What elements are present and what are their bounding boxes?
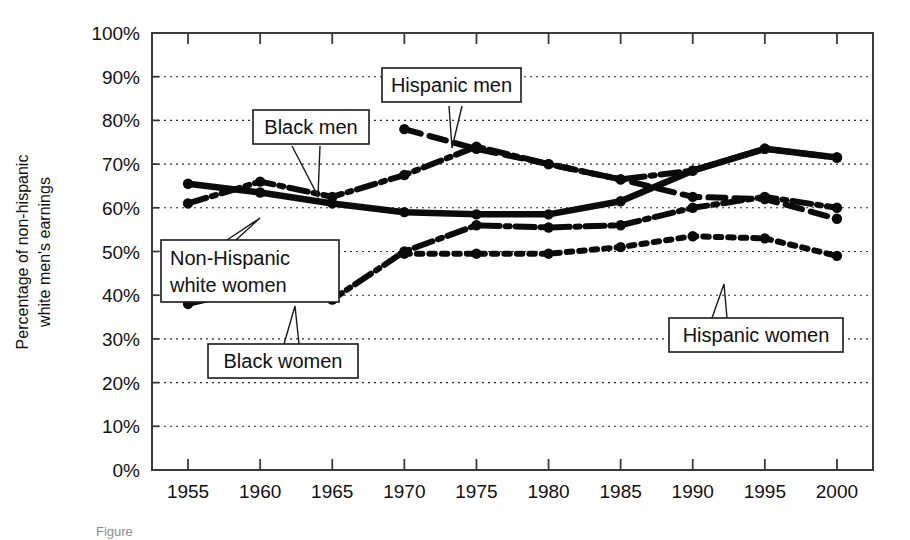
y-tick-label-20: 20% (102, 373, 140, 394)
x-tick-label-1970: 1970 (383, 481, 425, 502)
y-tick-label-60: 60% (102, 198, 140, 219)
black-men-label: Black men (264, 116, 357, 138)
y-tick-label-100: 100% (91, 23, 140, 44)
data-point (255, 187, 265, 197)
data-point (615, 242, 625, 252)
y-tick-label-80: 80% (102, 110, 140, 131)
data-point (832, 251, 842, 261)
data-point (615, 174, 625, 184)
data-point (471, 220, 481, 230)
data-point (255, 176, 265, 186)
data-point (615, 220, 625, 230)
data-point (832, 203, 842, 213)
hispanic-men-label: Hispanic men (391, 74, 512, 96)
black-women-label: Black women (224, 350, 343, 372)
x-tick-label-1980: 1980 (527, 481, 569, 502)
data-point (183, 198, 193, 208)
data-point (471, 144, 481, 154)
line-chart: 1955196019651970197519801985199019952000… (0, 0, 910, 540)
y-tick-label-50: 50% (102, 242, 140, 263)
data-point (543, 222, 553, 232)
data-point (543, 248, 553, 258)
non-hispanic-white-women-label-line1: Non-Hispanic (170, 247, 290, 269)
data-point (688, 231, 698, 241)
data-point (688, 192, 698, 202)
x-tick-label-2000: 2000 (816, 481, 858, 502)
y-tick-label-90: 90% (102, 67, 140, 88)
data-point (760, 192, 770, 202)
data-point (543, 159, 553, 169)
data-point (327, 192, 337, 202)
y-tick-label-10: 10% (102, 416, 140, 437)
data-point (399, 124, 409, 134)
data-point (183, 179, 193, 189)
x-tick-label-1985: 1985 (600, 481, 642, 502)
data-point (832, 152, 842, 162)
hispanic-women-label: Hispanic women (683, 324, 830, 346)
figure-caption-text: Figure (96, 524, 133, 539)
data-point (688, 165, 698, 175)
x-tick-label-1965: 1965 (311, 481, 353, 502)
data-point (471, 248, 481, 258)
non-hispanic-white-women-label-line2: white women (169, 274, 287, 296)
x-tick-label-1955: 1955 (167, 481, 209, 502)
x-tick-label-1975: 1975 (455, 481, 497, 502)
data-point (399, 170, 409, 180)
y-axis-title-line2: white men's earnings (36, 177, 53, 328)
data-point (760, 233, 770, 243)
x-tick-label-1995: 1995 (744, 481, 786, 502)
x-tick-label-1990: 1990 (672, 481, 714, 502)
data-point (399, 207, 409, 217)
data-point (688, 203, 698, 213)
figure-caption: Figure (96, 524, 133, 539)
x-tick-label-1960: 1960 (239, 481, 281, 502)
data-point (543, 209, 553, 219)
y-axis-title-line1: Percentage of non-hispanic (14, 155, 31, 350)
data-point (615, 196, 625, 206)
data-point (399, 248, 409, 258)
y-tick-label-40: 40% (102, 285, 140, 306)
data-point (471, 209, 481, 219)
y-tick-label-70: 70% (102, 154, 140, 175)
figure-container: 1955196019651970197519801985199019952000… (0, 0, 910, 540)
y-tick-label-0: 0% (113, 460, 141, 481)
data-point (832, 214, 842, 224)
y-tick-label-30: 30% (102, 329, 140, 350)
data-point (760, 144, 770, 154)
